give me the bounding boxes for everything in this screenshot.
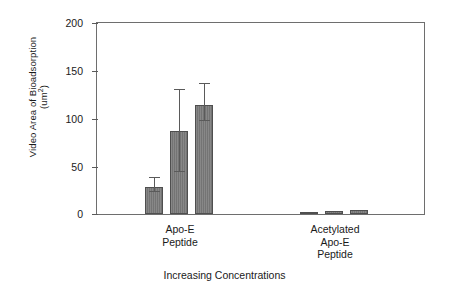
- x-axis-title: Increasing Concentrations: [0, 269, 449, 281]
- error-bar-group0-1: [170, 90, 188, 214]
- y-axis-title-wrap: Video Area of Bioadsorption (um2): [0, 0, 56, 218]
- error-cap-upper: [199, 83, 210, 84]
- y-tick-label-100: 100: [65, 114, 83, 125]
- category-label-1: Acetylated Apo-E Peptide: [280, 223, 390, 261]
- y-axis-title-line1: Video Area of Bioadsorption: [27, 37, 38, 157]
- error-cap-upper: [174, 89, 185, 90]
- y-tick-0: 0: [92, 214, 98, 215]
- error-stem: [204, 84, 205, 121]
- bar-group1-1: [325, 211, 343, 214]
- y-axis-units-close: ): [38, 85, 49, 88]
- y-tick-200: 200: [92, 23, 98, 24]
- category-label-0-line1: Apo-E: [128, 223, 232, 236]
- category-label-0: Apo-E Peptide: [128, 223, 232, 248]
- error-bar-group0-2: [195, 84, 213, 214]
- error-bar-group0-0: [145, 178, 163, 214]
- bar-group1-0: [300, 212, 318, 214]
- error-stem: [179, 90, 180, 172]
- category-label-1-line1: Acetylated: [280, 223, 390, 236]
- y-tick-150: 150: [92, 71, 98, 72]
- error-cap-upper: [149, 177, 160, 178]
- y-axis-units-open: (um: [38, 92, 49, 109]
- error-stem: [154, 178, 155, 192]
- bar-group1-2: [350, 210, 368, 214]
- error-cap-lower: [199, 120, 210, 121]
- y-axis-title-line2: (um2): [38, 17, 49, 177]
- error-cap-lower: [174, 171, 185, 172]
- category-label-1-line2: Apo-E: [280, 236, 390, 249]
- y-axis-title: Video Area of Bioadsorption (um2): [27, 17, 49, 177]
- y-tick-label-0: 0: [77, 209, 83, 220]
- y-tick-label-150: 150: [65, 66, 83, 77]
- y-tick-label-50: 50: [71, 162, 83, 173]
- category-label-1-line3: Peptide: [280, 248, 390, 261]
- y-tick-100: 100: [92, 119, 98, 120]
- chart-figure: Video Area of Bioadsorption (um2) 200 15…: [0, 0, 449, 290]
- plot-area: 200 150 100 50 0: [96, 22, 425, 215]
- y-axis-units-exponent: 2: [37, 88, 44, 92]
- y-tick-50: 50: [92, 167, 98, 168]
- y-tick-label-200: 200: [65, 18, 83, 29]
- error-cap-lower: [149, 191, 160, 192]
- category-label-0-line2: Peptide: [128, 236, 232, 249]
